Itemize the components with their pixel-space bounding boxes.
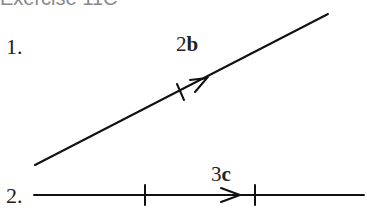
line-1 xyxy=(35,14,328,165)
vector-diagram xyxy=(0,0,367,218)
